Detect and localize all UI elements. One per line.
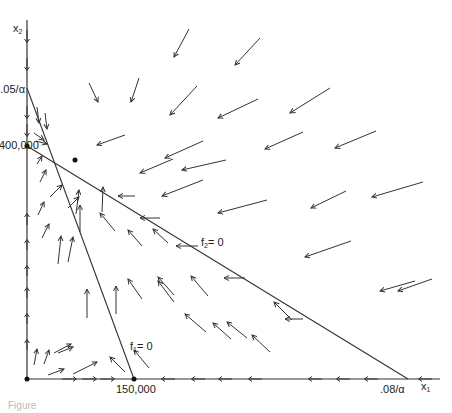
tick-label-150000: 150,000 [116,384,156,395]
f1-nullcline [27,88,134,379]
axes [27,20,440,379]
vector-field [34,29,432,375]
tick-label-08-alpha: .08/α [380,384,405,395]
axis-flow-arrows [27,30,432,379]
tick-label-400000: 400,000 [0,140,24,151]
f2-nullcline-label: f2= 0 [201,237,224,249]
f2-nullcline [27,146,408,379]
x2-label-sub: 2 [19,28,23,35]
f2-label-eq: = 0 [208,236,224,248]
interior-equilibrium-point [73,158,78,163]
x2-axis-label: x2 [13,23,22,35]
x1-label-sub: 1 [427,386,431,393]
f1-nullcline-label: f1= 0 [130,341,153,353]
x1-intercept-point [132,377,137,382]
f1-label-eq: = 0 [137,340,153,352]
tick-label-05-alpha: .05/α [0,84,25,95]
nullclines [27,88,408,379]
x1-axis-label: x1 [421,381,430,393]
origin-point [25,377,30,382]
figure-caption: Figure [8,400,36,411]
